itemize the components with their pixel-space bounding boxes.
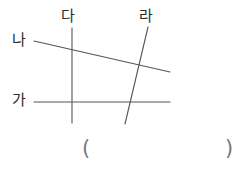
answer-open-paren: ( [82,138,90,159]
line-ra [125,27,148,124]
line-label-na: 나 [12,33,26,48]
line-na [34,41,170,72]
geometry-line-canvas [0,0,239,174]
line-label-da: 다 [61,9,75,24]
line-label-ga: 가 [12,93,26,108]
answer-close-paren: ) [225,138,233,159]
line-label-ra: 라 [139,9,153,24]
geometry-figure: 가 나 다 라 ( ) [0,0,239,174]
